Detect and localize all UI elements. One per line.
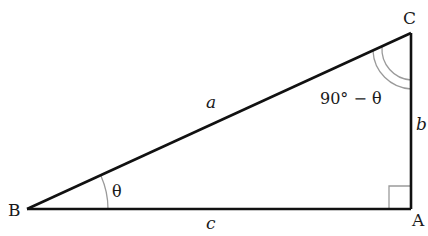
vertex-label-c: C [403,8,416,28]
side-label-b: b [416,114,427,134]
vertex-label-b: B [8,200,21,220]
angle-label-c: 90° − θ [320,89,382,108]
right-triangle-diagram: B A C a b c θ 90° − θ [0,0,428,236]
angle-arc-theta [101,176,108,209]
side-label-a: a [206,92,216,112]
vertex-label-a: A [411,210,425,230]
side-a [27,33,411,209]
angle-arc-c-outer [373,51,411,89]
angle-label-theta: θ [112,182,122,201]
right-angle-marker [389,186,411,209]
side-label-c: c [206,213,216,233]
angle-arc-c-inner [382,47,411,80]
